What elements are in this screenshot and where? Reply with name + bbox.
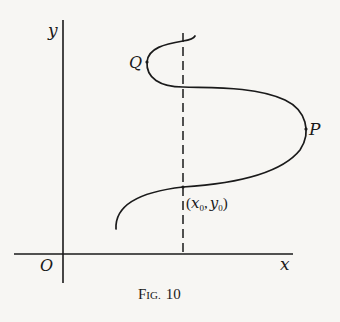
paren-close: ) — [223, 195, 228, 212]
point-p-label: P — [308, 119, 321, 139]
x-axis-label: x — [280, 254, 290, 274]
point-x0y0-marker — [181, 185, 184, 188]
caption-small-caps: IG. — [146, 289, 161, 301]
origin-label: O — [40, 256, 53, 275]
figure-canvas: y x O Q P (x0,y0) FIG.10 — [0, 0, 340, 322]
caption-prefix: F — [138, 286, 146, 302]
caption-number: 10 — [166, 286, 181, 302]
point-x0y0-label: (x0,y0) — [186, 194, 228, 213]
figure-caption: FIG.10 — [138, 286, 181, 302]
point-q-label: Q — [129, 53, 142, 72]
comma: , — [204, 195, 208, 211]
point-p-marker — [304, 127, 307, 130]
point-q-marker — [145, 60, 148, 63]
y-axis-label: y — [47, 20, 58, 40]
